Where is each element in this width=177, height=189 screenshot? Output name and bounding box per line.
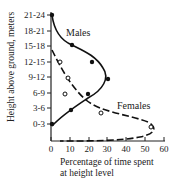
chart: 21-24 18-21 15-18 12-15 9-12 6-9 3-6 0-3… [0,0,177,189]
x-tick-label: 0 [49,144,54,154]
y-tick-label: 0-3 [33,119,45,129]
males-label: Males [66,27,91,38]
females-curve [52,50,154,141]
y-tick-label: 3-6 [33,103,45,113]
y-tick-label: 12-15 [24,57,45,67]
y-tick-label: 9-12 [29,72,46,82]
x-axis-title-line2: at height level [60,168,114,178]
y-tick-label: 15-18 [24,41,45,51]
x-tick-label: 40 [122,144,132,154]
x-tick-label: 60 [160,144,170,154]
y-tick-label: 6-9 [33,88,45,98]
x-axis-title-line1: Percentage of time spent [60,157,154,167]
x-tick-labels: 0 10 20 30 40 50 60 [49,144,169,154]
x-tick-label: 10 [66,144,76,154]
x-tick-label: 20 [85,144,95,154]
y-tick-labels: 21-24 18-21 15-18 12-15 9-12 6-9 3-6 0-3 [24,10,45,129]
y-tick-label: 21-24 [24,10,45,20]
y-tick-label: 18-21 [24,26,45,36]
y-axis-title: Height above ground, meters [6,11,16,122]
x-tick-label: 30 [103,144,113,154]
x-tick-label: 50 [141,144,151,154]
females-markers [58,60,153,129]
females-label: Females [117,100,150,111]
